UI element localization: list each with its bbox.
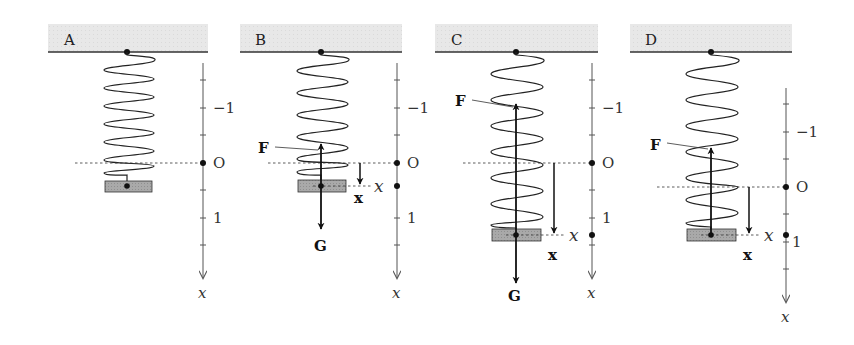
position-label: x	[374, 176, 384, 196]
force-f-leader	[667, 143, 708, 149]
x-axis: −1 O 1 x	[392, 63, 429, 302]
panel-label: A	[63, 31, 75, 49]
panel-label: B	[255, 31, 266, 49]
tick-label-one: 1	[602, 209, 612, 227]
tick-label-origin: O	[213, 154, 225, 172]
tick-label-minus-one: −1	[213, 99, 235, 117]
force-f-label: F	[455, 92, 466, 110]
origin-point	[589, 160, 595, 166]
panel-label: C	[451, 31, 462, 49]
tick-label-origin: O	[796, 178, 808, 196]
axis-variable-label: x	[587, 284, 596, 302]
position-point	[394, 183, 400, 189]
tick-label-origin: O	[407, 154, 419, 172]
tick-label-one: 1	[407, 209, 417, 227]
force-f-leader	[275, 147, 318, 150]
axis-variable-label: x	[392, 284, 401, 302]
x-axis: −1 O 1 x	[198, 63, 235, 302]
origin-point	[200, 160, 206, 166]
force-g-label: G	[314, 237, 327, 255]
position-point	[589, 232, 595, 238]
force-f-label: F	[650, 136, 661, 154]
panel-d: D F x x −1 O 1 x	[630, 24, 818, 326]
panel-a: A −1 O 1 x	[48, 24, 235, 302]
mass-center	[124, 183, 130, 189]
displacement-label: x	[354, 189, 364, 207]
x-axis: −1 O 1 x	[587, 63, 624, 302]
tick-label-origin: O	[602, 154, 614, 172]
x-axis: −1 O 1 x	[781, 88, 818, 326]
mass-center	[318, 183, 324, 189]
origin-point	[783, 184, 789, 190]
position-label: x	[569, 225, 579, 245]
displacement-label: x	[548, 246, 558, 264]
axis-variable-label: x	[781, 308, 790, 326]
spring	[491, 52, 544, 229]
mass-center	[708, 232, 714, 238]
position-point	[783, 232, 789, 238]
panel-label: D	[645, 31, 657, 49]
spring	[297, 52, 349, 180]
axis-variable-label: x	[198, 284, 207, 302]
tick-label-minus-one: −1	[602, 99, 624, 117]
spring-mass-diagram: A −1 O 1 x B	[0, 0, 854, 345]
mass-center	[513, 232, 519, 238]
tick-label-one: 1	[213, 209, 223, 227]
tick-label-one: 1	[792, 233, 802, 251]
displacement-label: x	[743, 246, 753, 264]
tick-label-minus-one: −1	[407, 99, 429, 117]
spring	[686, 52, 739, 229]
panel-b: B F G x x −1 O 1	[240, 24, 429, 302]
tick-label-minus-one: −1	[796, 123, 818, 141]
origin-point	[394, 160, 400, 166]
panel-c: C F G x x −1 O 1	[435, 24, 624, 305]
force-g-label: G	[508, 287, 521, 305]
spring	[104, 52, 155, 181]
position-label: x	[764, 225, 774, 245]
force-f-label: F	[258, 139, 269, 157]
